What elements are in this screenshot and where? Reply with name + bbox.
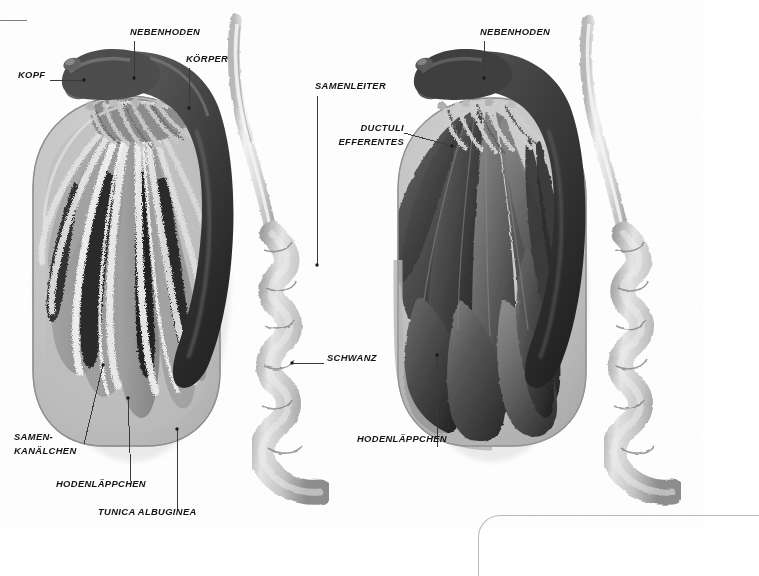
label-tunica-albuginea: TUNICA ALBUGINEA [98, 505, 197, 519]
label-ductuli-efferentes: DUCTULI EFFERENTES [307, 121, 404, 148]
label-schwanz: SCHWANZ [327, 351, 377, 365]
label-hodenlaeppchen-left: HODENLÄPPCHEN [56, 477, 146, 491]
label-nebenhoden-right: NEBENHODEN [480, 25, 550, 39]
label-samenleiter: SAMENLEITER [315, 79, 386, 93]
label-koerper: KÖRPER [186, 52, 228, 66]
label-kopf: KOPF [18, 68, 45, 82]
label-hodenlaeppchen-right: HODENLÄPPCHEN [357, 432, 447, 446]
label-samen-kanaelchen: SAMEN- KANÄLCHEN [14, 430, 77, 457]
label-nebenhoden: NEBENHODEN [130, 25, 200, 39]
